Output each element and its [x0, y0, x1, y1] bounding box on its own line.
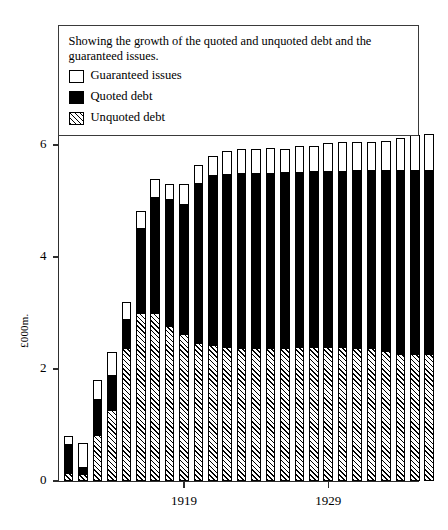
bar-segment-unquoted: [64, 473, 74, 481]
y-tick-4: [53, 256, 59, 257]
bar-segment-unquoted: [424, 354, 434, 481]
bar-segment-guaranteed: [122, 302, 132, 320]
bar-segment-unquoted: [165, 326, 175, 481]
bar-segment-quoted: [122, 320, 132, 348]
bar-segment-quoted: [165, 200, 175, 326]
bar-segment-unquoted: [280, 348, 290, 481]
bar-segment-guaranteed: [107, 352, 117, 376]
bar-segment-quoted: [64, 445, 74, 473]
bar-segment-quoted: [251, 174, 261, 348]
bar-segment-unquoted: [150, 313, 160, 481]
bar-segment-guaranteed: [295, 146, 305, 173]
y-tick-6: [53, 144, 59, 145]
bar-segment-quoted: [136, 229, 146, 313]
bar-segment-guaranteed: [78, 443, 88, 468]
bar-segment-guaranteed: [266, 148, 276, 174]
bar-segment-quoted: [237, 174, 247, 348]
bar-segment-quoted: [222, 175, 232, 347]
legend-item-label: Unquoted debt: [91, 110, 166, 125]
bar-segment-quoted: [381, 171, 391, 351]
bar-segment-quoted: [323, 172, 333, 347]
x-axis-line: [58, 481, 419, 482]
bar-segment-unquoted: [93, 435, 103, 481]
bar-segment-quoted: [266, 174, 276, 348]
bar-segment-guaranteed: [251, 149, 261, 174]
x-tick-1929: [328, 482, 329, 488]
bar-segment-unquoted: [381, 351, 391, 481]
bar-segment-unquoted: [208, 345, 218, 481]
bar-segment-unquoted: [338, 347, 348, 481]
bar-segment-unquoted: [309, 347, 319, 481]
bar-segment-quoted: [338, 172, 348, 347]
bar-segment-quoted: [280, 173, 290, 348]
x-tick-label-1929: 1929: [298, 493, 358, 509]
legend-item-0[interactable]: Guaranteed issues: [69, 69, 329, 85]
bar-segment-quoted: [93, 400, 103, 435]
bar-segment-guaranteed: [338, 142, 348, 172]
bar-segment-guaranteed: [179, 184, 189, 205]
x-tick-label-1919: 1919: [154, 493, 214, 509]
x-tick-1919: [183, 482, 184, 488]
bar-segment-quoted: [194, 184, 204, 343]
bar-chart-figure: 024619191929£000m.Showing the growth of …: [0, 0, 448, 530]
bar-segment-quoted: [150, 198, 160, 313]
bar-segment-quoted: [309, 172, 319, 347]
bar-segment-quoted: [424, 171, 434, 354]
bar-segment-unquoted: [295, 347, 305, 481]
bar-segment-guaranteed: [424, 134, 434, 170]
bar-segment-unquoted: [122, 348, 132, 481]
bar-segment-unquoted: [136, 313, 146, 481]
bar-segment-guaranteed: [64, 436, 74, 444]
y-axis-line: [58, 136, 59, 482]
bar-segment-quoted: [208, 176, 218, 346]
bar-segment-unquoted: [222, 347, 232, 481]
bar-segment-unquoted: [396, 354, 406, 481]
bar-segment-quoted: [396, 171, 406, 355]
bar-segment-unquoted: [194, 343, 204, 481]
bar-segment-quoted: [78, 468, 88, 474]
y-tick-2: [53, 368, 59, 369]
bar-segment-guaranteed: [222, 151, 232, 175]
y-tick-label-2: 2: [25, 360, 47, 376]
legend-item-label: Quoted debt: [91, 89, 153, 104]
bar-segment-guaranteed: [367, 142, 377, 171]
bar-segment-quoted: [179, 205, 189, 334]
bar-segment-unquoted: [107, 410, 117, 481]
legend-caption-text: Showing the growth of the quoted and unq…: [69, 34, 409, 63]
bar-segment-guaranteed: [208, 156, 218, 176]
bar-segment-guaranteed: [194, 165, 204, 184]
y-tick-0: [53, 480, 59, 481]
legend-item-1[interactable]: Quoted debt: [69, 90, 329, 106]
bar-segment-quoted: [352, 171, 362, 348]
bar-segment-guaranteed: [93, 380, 103, 400]
bar-segment-quoted: [367, 171, 377, 348]
white-square-icon: [69, 70, 84, 83]
bar-segment-guaranteed: [150, 179, 160, 198]
y-tick-label-4: 4: [25, 248, 47, 264]
bar-segment-unquoted: [251, 348, 261, 481]
bar-segment-quoted: [410, 171, 420, 354]
bar-segment-unquoted: [352, 348, 362, 481]
bar-segment-guaranteed: [165, 184, 175, 201]
y-axis-title: £000m.: [18, 313, 30, 348]
bar-segment-guaranteed: [280, 149, 290, 173]
bar-segment-unquoted: [367, 348, 377, 481]
bar-segment-unquoted: [237, 348, 247, 481]
bar-segment-unquoted: [179, 334, 189, 481]
y-tick-label-0: 0: [25, 472, 47, 488]
bar-segment-guaranteed: [410, 135, 420, 170]
bar-segment-unquoted: [78, 474, 88, 481]
bar-segment-guaranteed: [309, 146, 319, 172]
bar-segment-guaranteed: [323, 143, 333, 172]
legend-item-label: Guaranteed issues: [91, 68, 182, 83]
bar-segment-quoted: [107, 376, 117, 410]
hatched-square-icon: [69, 112, 84, 125]
bar-segment-quoted: [295, 173, 305, 347]
legend-item-2[interactable]: Unquoted debt: [69, 111, 329, 127]
bar-segment-unquoted: [410, 354, 420, 481]
bar-segment-guaranteed: [352, 142, 362, 171]
black-square-icon: [69, 91, 84, 104]
bar-segment-guaranteed: [136, 211, 146, 229]
bar-segment-guaranteed: [396, 138, 406, 170]
bar-segment-guaranteed: [381, 141, 391, 171]
